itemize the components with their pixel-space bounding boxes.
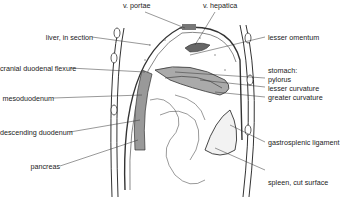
label-spleen: spleen, cut surface xyxy=(268,178,328,187)
label-v-hepatica: v. hepatica xyxy=(203,1,237,10)
label-gastrosplenic-ligament: gastrosplenic ligament xyxy=(268,138,340,147)
label-stomach: stomach: xyxy=(268,66,297,75)
label-descending-duodenum: descending duodenum xyxy=(0,128,72,137)
label-lesser-curvature: lesser curvature xyxy=(268,84,319,93)
label-mesoduodenum: mesoduodenum xyxy=(0,94,54,103)
anatomy-diagram: liver, in section cranial duodenal flexu… xyxy=(0,0,349,197)
label-pylorus: pylorus xyxy=(268,75,291,84)
label-pancreas: pancreas xyxy=(0,162,60,171)
label-liver: liver, in section xyxy=(0,33,93,42)
label-v-portae: v. portae xyxy=(123,1,150,10)
label-greater-curvature: greater curvature xyxy=(268,93,323,102)
label-cranial-duodenal-flexure: cranial duodenal flexure xyxy=(0,64,71,73)
label-lesser-omentum: lesser omentum xyxy=(268,33,319,42)
